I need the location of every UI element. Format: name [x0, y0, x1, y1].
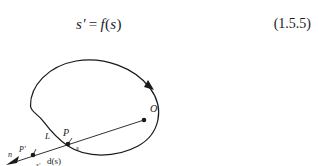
figure-diagram: O P P′ L s s′ d(s) n — [0, 50, 319, 166]
equation-operator: = — [86, 16, 101, 32]
segment-L-label: L — [44, 131, 50, 141]
equation-row: s′=f(s) (1.5.5) — [0, 16, 319, 42]
point-O — [142, 118, 147, 123]
equation-rhs-close-paren: ) — [116, 16, 121, 32]
point-P-label: P — [62, 127, 69, 138]
point-P-prime-label: P′ — [18, 145, 26, 154]
figure-page: s′=f(s) (1.5.5) O P P′ L s s′ — [0, 0, 319, 166]
normal-vector-n-label: n — [8, 150, 12, 159]
flow-direction-arrowhead — [144, 80, 154, 90]
displayed-equation: s′=f(s) — [76, 16, 122, 33]
arclength-s-prime-label: s′ — [36, 161, 41, 166]
distance-function-label: d(s) — [47, 156, 61, 166]
equation-lhs: s′ — [76, 16, 86, 32]
equation-number: (1.5.5) — [274, 16, 311, 32]
point-O-label: O — [150, 103, 157, 114]
arclength-s-label: s — [76, 144, 79, 152]
